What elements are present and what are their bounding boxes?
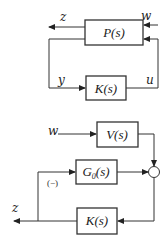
top-diagram: P(s) K(s) z w u y [49, 9, 158, 100]
z-signal-label: z [59, 10, 67, 24]
u-signal-label: u [146, 73, 154, 87]
y-measurement-path [49, 39, 85, 88]
bottom-diagram: V(s) G0(s) K(s) w z (−) [11, 122, 160, 234]
z-signal-label-bottom: z [11, 201, 19, 215]
weight-to-sum-path [138, 134, 154, 166]
sum-to-controller-path [118, 178, 154, 221]
summing-junction [149, 167, 160, 178]
weight-label: V(s) [106, 127, 128, 142]
negative-feedback-sign: (−) [47, 178, 58, 188]
controller-label-bottom: K(s) [85, 213, 108, 228]
plant-label: P(s) [102, 25, 125, 40]
w-signal-label: w [141, 9, 152, 23]
block-diagrams: P(s) K(s) z w u y V(s) G0(s) K(s) w [0, 0, 167, 243]
controller-label: K(s) [94, 81, 117, 96]
w-signal-label-bottom: w [48, 124, 59, 138]
nominal-plant-label: G0(s) [82, 164, 109, 181]
y-signal-label: y [57, 73, 65, 87]
